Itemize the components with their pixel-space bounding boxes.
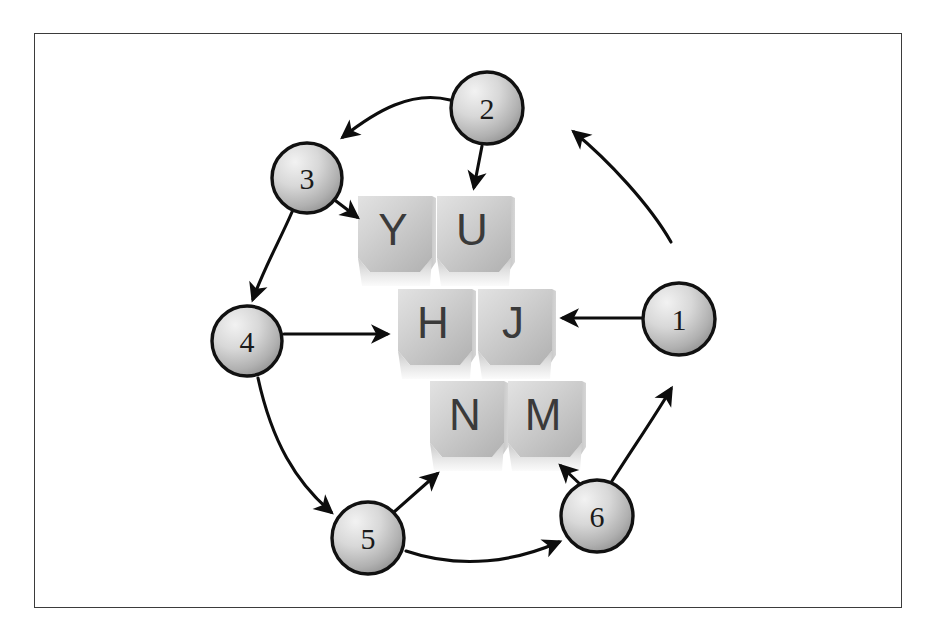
arrow-node5-to-key-n bbox=[394, 474, 437, 512]
arrow-node1-to-node2 bbox=[574, 132, 671, 242]
node-circle-3[interactable]: 3 bbox=[272, 143, 342, 213]
node-circle-1[interactable]: 1 bbox=[643, 283, 715, 355]
arrow-node3-to-key-y bbox=[332, 198, 357, 217]
keycap-group: Y U H J bbox=[358, 196, 586, 471]
node-circle-4[interactable]: 4 bbox=[212, 306, 282, 376]
node-circle-2[interactable]: 2 bbox=[451, 72, 523, 144]
keycap-n[interactable]: N bbox=[430, 381, 508, 471]
keycap-h[interactable]: H bbox=[398, 289, 476, 379]
diagram-canvas: Y U H J bbox=[0, 0, 936, 637]
arrow-node3-to-node4 bbox=[253, 212, 292, 299]
arrow-node5-to-node6 bbox=[406, 542, 559, 562]
keycap-y[interactable]: Y bbox=[358, 196, 436, 286]
arrow-node2-to-node3 bbox=[343, 97, 450, 137]
arrow-node6-to-node1 bbox=[612, 389, 671, 481]
diagram-page: Y U H J bbox=[0, 0, 936, 637]
arrow-node2-to-key-u bbox=[474, 146, 482, 187]
node-circle-6[interactable]: 6 bbox=[561, 480, 633, 552]
keycap-u[interactable]: U bbox=[437, 196, 515, 286]
keycap-j[interactable]: J bbox=[478, 289, 556, 379]
keycap-m[interactable]: M bbox=[508, 381, 586, 471]
arrow-node4-to-node5 bbox=[258, 378, 331, 512]
node-circle-5[interactable]: 5 bbox=[332, 502, 404, 574]
